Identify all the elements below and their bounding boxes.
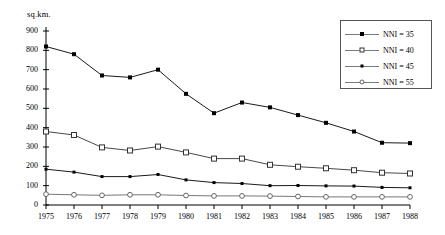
data-point: [128, 75, 132, 79]
data-point: [408, 171, 413, 176]
data-point: [44, 44, 48, 48]
data-point: [212, 194, 217, 199]
legend-item[interactable]: NNI = 45: [345, 59, 414, 73]
data-point: [184, 92, 188, 96]
data-point: [72, 52, 76, 56]
data-point: [100, 145, 105, 150]
data-point: [44, 192, 49, 197]
legend-item[interactable]: NNI = 55: [345, 75, 414, 89]
legend-marker-icon: [345, 45, 379, 55]
data-point: [212, 111, 216, 115]
data-point: [156, 68, 160, 72]
data-point: [128, 148, 133, 153]
data-point: [156, 192, 161, 197]
data-point: [45, 168, 48, 171]
data-point: [268, 105, 272, 109]
data-point: [325, 184, 328, 187]
legend-item[interactable]: NNI = 35: [345, 27, 414, 41]
data-point: [72, 192, 77, 197]
data-point: [324, 194, 329, 199]
data-point: [240, 194, 245, 199]
data-point: [212, 156, 217, 161]
data-point: [296, 164, 301, 169]
data-point: [129, 175, 132, 178]
data-point: [352, 194, 357, 199]
data-point: [408, 141, 412, 145]
data-point: [184, 193, 189, 198]
data-point: [268, 162, 273, 167]
legend-marker-icon: [345, 77, 379, 87]
data-point: [44, 129, 49, 134]
legend-item-label: NNI = 45: [383, 62, 414, 71]
data-point: [353, 185, 356, 188]
data-point: [101, 175, 104, 178]
line-chart: sq.km. 0100200300400500600700800900 1975…: [0, 0, 445, 235]
data-point: [213, 181, 216, 184]
data-point: [100, 73, 104, 77]
data-point: [408, 194, 413, 199]
legend-marker-icon: [345, 61, 379, 71]
data-point: [157, 173, 160, 176]
data-point: [184, 150, 189, 155]
data-point: [296, 113, 300, 117]
data-point: [240, 101, 244, 105]
data-point: [381, 186, 384, 189]
data-point: [73, 171, 76, 174]
data-point: [72, 133, 77, 138]
legend-marker-icon: [345, 29, 379, 39]
data-point: [380, 194, 385, 199]
legend-item-label: NNI = 35: [383, 30, 414, 39]
data-point: [296, 194, 301, 199]
data-point: [380, 170, 385, 175]
data-point: [324, 121, 328, 125]
chart-legend: NNI = 35NNI = 40NNI = 45NNI = 55: [340, 20, 432, 89]
data-point: [324, 166, 329, 171]
data-point: [241, 182, 244, 185]
legend-item-label: NNI = 40: [383, 46, 414, 55]
legend-item-label: NNI = 55: [383, 78, 414, 87]
data-point: [297, 184, 300, 187]
data-point: [156, 144, 161, 149]
data-point: [185, 178, 188, 181]
data-point: [100, 193, 105, 198]
data-point: [352, 168, 357, 173]
data-point: [128, 192, 133, 197]
legend-item[interactable]: NNI = 40: [345, 43, 414, 57]
data-point: [240, 156, 245, 161]
data-point: [269, 184, 272, 187]
data-point: [380, 141, 384, 145]
data-point: [352, 130, 356, 134]
data-point: [268, 194, 273, 199]
data-point: [409, 186, 412, 189]
